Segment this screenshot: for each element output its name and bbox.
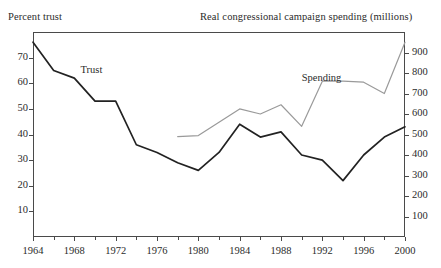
x-axis-tick-label: 2000 [385, 245, 425, 256]
left-axis-tick-label: 50 [2, 102, 28, 113]
x-axis-minor-tick [302, 237, 303, 240]
series-lines-layer [0, 0, 441, 268]
x-axis-minor-tick [54, 237, 55, 240]
right-axis-tick [405, 53, 409, 54]
x-axis-minor-tick [178, 237, 179, 240]
x-axis-minor-tick [260, 237, 261, 240]
right-axis-tick-label: 600 [412, 107, 428, 118]
series-label-spending: Spending [302, 72, 342, 83]
x-axis-tick-label: 1968 [54, 245, 94, 256]
x-axis-tick-label: 1972 [96, 245, 136, 256]
left-axis-tick-label: 60 [2, 76, 28, 87]
x-axis-tick-label: 1976 [137, 245, 177, 256]
x-axis-tick-label: 1996 [344, 245, 384, 256]
x-axis-minor-tick [95, 237, 96, 240]
right-axis-tick [405, 135, 409, 136]
x-axis-minor-tick [343, 237, 344, 240]
right-axis-tick [405, 155, 409, 156]
right-axis-tick-label: 400 [412, 148, 428, 159]
x-axis-tick-label: 1992 [302, 245, 342, 256]
series-label-trust: Trust [81, 64, 103, 75]
x-axis-tick-label: 1980 [178, 245, 218, 256]
x-axis-tick [74, 237, 75, 241]
left-axis-tick [29, 160, 33, 161]
right-axis-tick [405, 73, 409, 74]
x-axis-tick-label: 1988 [261, 245, 301, 256]
right-axis-tick-label: 900 [412, 46, 428, 57]
right-axis-tick-label: 200 [412, 189, 428, 200]
left-axis-tick [29, 186, 33, 187]
x-axis-minor-tick [384, 237, 385, 240]
x-axis-tick [198, 237, 199, 241]
left-axis-tick [29, 83, 33, 84]
x-axis-tick [281, 237, 282, 241]
right-axis-tick [405, 217, 409, 218]
right-axis-tick-label: 800 [412, 66, 428, 77]
chart-figure: Percent trust Real congressional campaig… [0, 0, 441, 268]
left-axis-tick [29, 109, 33, 110]
right-axis-tick [405, 196, 409, 197]
x-axis-tick [405, 237, 406, 241]
left-axis-tick-label: 20 [2, 179, 28, 190]
left-axis-tick [29, 135, 33, 136]
left-axis-tick-label: 10 [2, 204, 28, 215]
x-axis-tick [364, 237, 365, 241]
x-axis-tick [157, 237, 158, 241]
left-axis-tick [29, 58, 33, 59]
right-axis-tick-label: 500 [412, 128, 428, 139]
right-axis-tick-label: 300 [412, 169, 428, 180]
x-axis-tick [322, 237, 323, 241]
x-axis-tick [116, 237, 117, 241]
left-axis-tick-label: 30 [2, 153, 28, 164]
left-axis-tick-label: 40 [2, 128, 28, 139]
x-axis-minor-tick [219, 237, 220, 240]
x-axis-tick-label: 1984 [220, 245, 260, 256]
x-axis-tick [240, 237, 241, 241]
right-axis-tick [405, 94, 409, 95]
left-axis-tick-label: 70 [2, 51, 28, 62]
left-axis-tick [29, 211, 33, 212]
right-axis-tick [405, 114, 409, 115]
x-axis-minor-tick [136, 237, 137, 240]
spending-line [178, 42, 405, 136]
right-axis-tick-label: 700 [412, 87, 428, 98]
x-axis-tick-label: 1964 [13, 245, 53, 256]
trust-line [33, 42, 405, 180]
right-axis-tick [405, 176, 409, 177]
x-axis-tick [33, 237, 34, 241]
right-axis-tick-label: 100 [412, 210, 428, 221]
